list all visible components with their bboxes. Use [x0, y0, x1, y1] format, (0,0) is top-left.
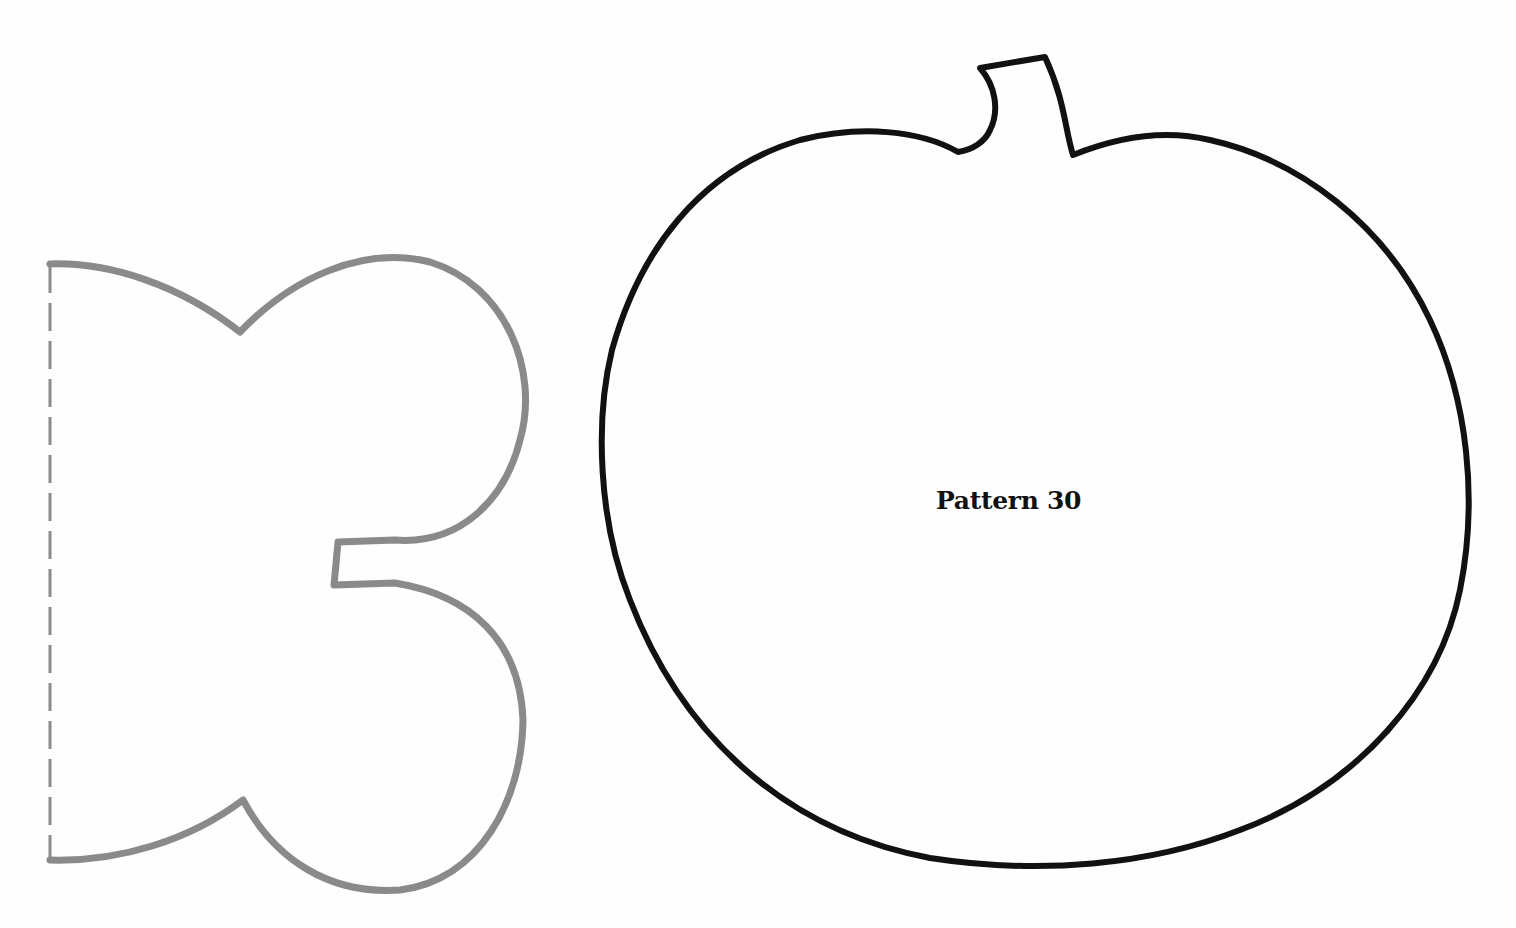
pattern-drawing	[0, 0, 1516, 928]
pumpkin-outline	[602, 57, 1469, 866]
pumpkin-shape	[602, 57, 1469, 866]
half-template-outline	[50, 258, 526, 891]
pattern-label: Pattern 30	[936, 486, 1081, 515]
half-template-shape	[50, 258, 526, 891]
pattern-page: Pattern 30	[0, 0, 1516, 928]
